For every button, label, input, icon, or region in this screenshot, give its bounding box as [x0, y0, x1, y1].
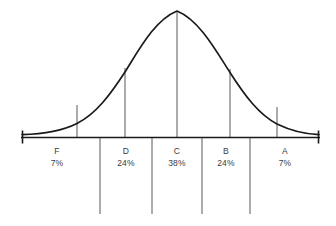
grading-curve-svg: [0, 0, 336, 226]
grade-percent-a: 7%: [245, 158, 325, 170]
grade-letter-a: A: [245, 146, 325, 158]
grade-letter-f: F: [17, 146, 97, 158]
segment-label-f: F 7%: [17, 146, 97, 169]
grade-percent-f: 7%: [17, 158, 97, 170]
figure-background: [0, 0, 336, 226]
segment-label-a: A 7%: [245, 146, 325, 169]
bell-curve-figure: F 7% D 24% C 38% B 24% A 7%: [0, 0, 336, 226]
